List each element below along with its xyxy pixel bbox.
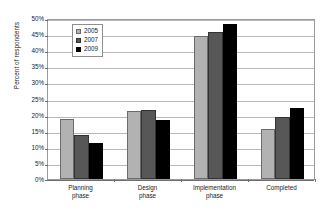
legend-label: 2007 bbox=[84, 37, 98, 43]
legend-entry-2009[interactable]: 2009 bbox=[76, 45, 98, 54]
x-axis-label-line1: Planning bbox=[68, 184, 93, 191]
y-axis-tick-mark bbox=[45, 180, 48, 181]
bar-2009-planning-phase[interactable] bbox=[89, 143, 104, 179]
bar-2005-implementation-phase[interactable] bbox=[194, 36, 209, 179]
y-axis-tick-label: 20% bbox=[19, 112, 44, 118]
y-axis-tick-label: 0% bbox=[19, 177, 44, 183]
x-axis-label-line1: Completed bbox=[266, 184, 296, 191]
bar-2007-completed[interactable] bbox=[275, 117, 290, 179]
x-axis-label-line2: phase bbox=[114, 192, 181, 200]
bar-group bbox=[127, 20, 171, 179]
bar-group bbox=[194, 20, 238, 179]
x-axis-category-labels: PlanningphaseDesignphaseImplementationph… bbox=[47, 184, 315, 216]
bar-2007-design-phase[interactable] bbox=[141, 110, 156, 179]
x-axis-label-completed: Completed bbox=[248, 184, 315, 192]
bar-2007-implementation-phase[interactable] bbox=[208, 32, 223, 179]
y-axis-tick-label: 40% bbox=[19, 48, 44, 54]
y-axis-tick-label: 50% bbox=[19, 16, 44, 22]
x-axis-tick-mark bbox=[315, 179, 316, 182]
y-axis-tick-label: 35% bbox=[19, 64, 44, 70]
bar-2009-completed[interactable] bbox=[290, 108, 305, 179]
bar-2007-planning-phase[interactable] bbox=[74, 135, 89, 179]
chart-legend: 200520072009 bbox=[72, 24, 103, 57]
y-axis-tick-label: 5% bbox=[19, 161, 44, 167]
x-axis-tick-mark bbox=[248, 179, 249, 182]
bar-chart: Percent of respondents 50%45%40%35%30%25… bbox=[0, 0, 334, 220]
legend-label: 2005 bbox=[84, 28, 98, 34]
legend-entry-2007[interactable]: 2007 bbox=[76, 36, 98, 45]
x-axis-label-design-phase: Designphase bbox=[114, 184, 181, 201]
x-axis-tick-mark bbox=[114, 179, 115, 182]
x-axis-label-line1: Implementation bbox=[193, 184, 236, 191]
y-axis-tick-label: 25% bbox=[19, 96, 44, 102]
bar-group bbox=[261, 20, 305, 179]
legend-entry-2005[interactable]: 2005 bbox=[76, 27, 98, 36]
x-axis-label-line2: phase bbox=[181, 192, 248, 200]
x-axis-label-implementation-phase: Implementationphase bbox=[181, 184, 248, 201]
legend-label: 2009 bbox=[84, 46, 98, 52]
y-axis-tick-label: 15% bbox=[19, 129, 44, 135]
x-axis-tick-mark bbox=[181, 179, 182, 182]
bar-2009-implementation-phase[interactable] bbox=[223, 24, 238, 179]
legend-swatch-icon bbox=[76, 47, 81, 52]
y-axis-tick-label: 10% bbox=[19, 145, 44, 151]
y-axis-tick-label: 45% bbox=[19, 32, 44, 38]
bar-2009-design-phase[interactable] bbox=[156, 120, 171, 179]
legend-swatch-icon bbox=[76, 38, 81, 43]
y-axis-tick-labels: 50%45%40%35%30%25%20%15%10%5%0% bbox=[19, 19, 44, 180]
bar-2005-planning-phase[interactable] bbox=[60, 119, 75, 179]
x-axis-label-planning-phase: Planningphase bbox=[47, 184, 114, 201]
bar-2005-design-phase[interactable] bbox=[127, 111, 142, 179]
x-axis-label-line2: phase bbox=[47, 192, 114, 200]
bar-2005-completed[interactable] bbox=[261, 129, 276, 179]
legend-swatch-icon bbox=[76, 29, 81, 34]
x-axis-label-line1: Design bbox=[138, 184, 158, 191]
y-axis-tick-label: 30% bbox=[19, 80, 44, 86]
